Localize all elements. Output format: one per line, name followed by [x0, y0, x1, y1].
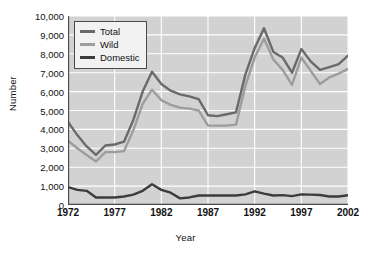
legend-label: Total	[100, 26, 120, 37]
legend-swatch-icon	[80, 56, 95, 59]
legend-label: Domestic	[100, 52, 140, 63]
x-axis-label: Year	[0, 232, 371, 243]
y-axis-tick: 8,000	[0, 48, 64, 59]
y-axis-tick: 7,000	[0, 67, 64, 78]
y-axis-tick: 5,000	[0, 105, 64, 116]
y-axis-tick: 6,000	[0, 86, 64, 97]
y-axis-tick: 3,000	[0, 143, 64, 154]
chart-legend: TotalWildDomestic	[74, 21, 147, 69]
y-axis-tick: 10,000	[0, 11, 64, 22]
x-axis-tick: 1977	[104, 207, 126, 218]
y-axis-tick: 9,000	[0, 29, 64, 40]
x-axis-tick: 1972	[57, 207, 79, 218]
y-axis-tick: 1,000	[0, 181, 64, 192]
x-axis-tick: 1997	[290, 207, 312, 218]
legend-item-wild[interactable]: Wild	[80, 38, 140, 51]
legend-label: Wild	[100, 39, 118, 50]
chart-figure: Number 01,0002,0003,0004,0005,0006,0007,…	[0, 0, 371, 256]
y-axis-tick: 4,000	[0, 124, 64, 135]
x-axis-tick-labels: 1972197719821987199219972002	[0, 207, 371, 223]
x-axis-tick: 1987	[197, 207, 219, 218]
legend-swatch-icon	[80, 30, 95, 33]
legend-item-domestic[interactable]: Domestic	[80, 51, 140, 64]
y-axis-tick: 2,000	[0, 162, 64, 173]
x-axis-tick: 1992	[244, 207, 266, 218]
legend-swatch-icon	[80, 43, 95, 46]
x-axis-tick: 2002	[337, 207, 359, 218]
x-axis-tick: 1982	[150, 207, 172, 218]
legend-item-total[interactable]: Total	[80, 25, 140, 38]
